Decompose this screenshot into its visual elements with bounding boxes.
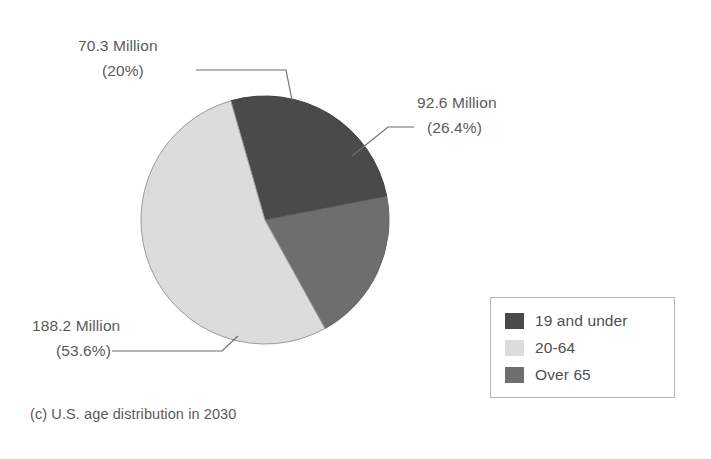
legend-label-20-64: 20-64 — [535, 339, 575, 357]
callout-over-65: 70.3 Million (20%) — [78, 33, 158, 83]
chart-legend: 19 and under 20-64 Over 65 — [490, 297, 675, 398]
callout-over-65-value: 70.3 Million — [78, 33, 158, 58]
leader-line-over-65 — [196, 70, 292, 100]
callout-19-and-under: 92.6 Million (26.4%) — [417, 90, 497, 140]
legend-swatch-19-and-under — [505, 313, 524, 329]
callout-20-64-value: 188.2 Million — [32, 313, 120, 338]
legend-label-over-65: Over 65 — [535, 366, 591, 384]
pie-chart-figure: 70.3 Million (20%) 92.6 Million (26.4%) … — [0, 0, 711, 459]
figure-caption: (c) U.S. age distribution in 2030 — [30, 406, 236, 422]
callout-20-64-percent: (53.6%) — [56, 338, 120, 363]
callout-19-and-under-value: 92.6 Million — [417, 90, 497, 115]
callout-19-and-under-percent: (26.4%) — [427, 115, 497, 140]
legend-item-19-and-under: 19 and under — [505, 307, 674, 334]
legend-swatch-20-64 — [505, 340, 524, 356]
legend-item-20-64: 20-64 — [505, 334, 674, 361]
leader-line-20-64 — [112, 336, 238, 351]
legend-swatch-over-65 — [505, 367, 524, 383]
callout-20-64: 188.2 Million (53.6%) — [32, 313, 120, 363]
legend-label-19-and-under: 19 and under — [535, 312, 628, 330]
legend-item-over-65: Over 65 — [505, 361, 674, 388]
callout-over-65-percent: (20%) — [102, 58, 158, 83]
